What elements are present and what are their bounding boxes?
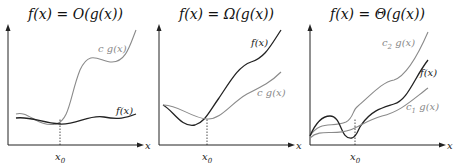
y-axis-arrow-icon [308, 24, 313, 31]
x0-label: x0 [55, 151, 66, 165]
x-axis-arrow-icon [288, 143, 295, 148]
y-axis-arrow-icon [157, 24, 162, 31]
panel-big-theta: f(x) = Θ(g(x)) xc2 g(x)f(x)c1 g(x)x0 [302, 0, 453, 166]
big-omega-plot: xf(x)c g(x)x0 [151, 0, 302, 166]
curve-label: c g(x) [257, 87, 286, 98]
curve-label: c2 g(x) [382, 37, 415, 51]
curve-label: f(x) [250, 37, 268, 48]
x0-label: x0 [202, 151, 213, 165]
x-axis-label: x [447, 140, 453, 151]
x-axis-arrow-icon [439, 143, 446, 148]
curve-label: f(x) [115, 105, 133, 116]
curve-label: f(x) [419, 67, 437, 78]
x-axis-arrow-icon [137, 143, 144, 148]
curve-label: c g(x) [98, 43, 127, 54]
x0-label: x0 [350, 151, 361, 165]
panel-big-o: f(x) = O(g(x)) xc g(x)f(x)x0 [0, 0, 151, 166]
curve-f-x- [310, 60, 428, 138]
big-o-plot: xc g(x)f(x)x0 [0, 0, 151, 166]
big-theta-plot: xc2 g(x)f(x)c1 g(x)x0 [302, 0, 453, 166]
y-axis-arrow-icon [6, 24, 11, 31]
panel-big-omega: f(x) = Ω(g(x)) xf(x)c g(x)x0 [151, 0, 302, 166]
curve-label: c1 g(x) [406, 101, 439, 115]
